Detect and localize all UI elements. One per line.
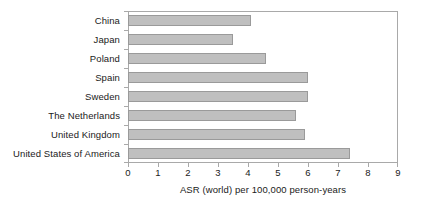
bar — [128, 34, 233, 45]
bar — [128, 72, 308, 83]
bar-row — [128, 144, 398, 163]
bar — [128, 91, 308, 102]
bar-row — [128, 125, 398, 144]
y-axis-category-label: The Netherlands — [0, 106, 124, 125]
y-axis-category-label: Japan — [0, 30, 124, 49]
y-axis-category-label: Sweden — [0, 87, 124, 106]
y-axis-category-label: United Kingdom — [0, 125, 124, 144]
x-axis-tick-labels: 0123456789 — [128, 167, 398, 181]
bar-row — [128, 87, 398, 106]
y-axis-category-label: United States of America — [0, 144, 124, 163]
x-axis-tick-label: 1 — [155, 167, 160, 178]
bar-chart-figure: ChinaJapanPolandSpainSwedenThe Netherlan… — [0, 0, 424, 206]
bar — [128, 148, 350, 159]
bar-row — [128, 30, 398, 49]
y-axis-category-label: China — [0, 11, 124, 30]
bar-series-container — [128, 11, 398, 163]
bar — [128, 129, 305, 140]
x-axis-tick-label: 3 — [215, 167, 220, 178]
x-axis-tick-label: 0 — [125, 167, 130, 178]
x-axis-tick-label: 2 — [185, 167, 190, 178]
y-axis-category-label: Spain — [0, 68, 124, 87]
bar-row — [128, 106, 398, 125]
x-axis-tick-label: 8 — [365, 167, 370, 178]
x-axis-tick-label: 7 — [335, 167, 340, 178]
bar-row — [128, 11, 398, 30]
x-axis-title: ASR (world) per 100,000 person-years — [128, 184, 398, 195]
bar — [128, 53, 266, 64]
x-axis-tick-label: 5 — [275, 167, 280, 178]
bar — [128, 15, 251, 26]
x-axis-tick-label: 9 — [395, 167, 400, 178]
x-axis-tick-label: 4 — [245, 167, 250, 178]
bar-row — [128, 49, 398, 68]
bar-row — [128, 68, 398, 87]
x-axis-tick-label: 6 — [305, 167, 310, 178]
y-axis-category-labels: ChinaJapanPolandSpainSwedenThe Netherlan… — [0, 11, 124, 163]
bar — [128, 110, 296, 121]
y-axis-category-label: Poland — [0, 49, 124, 68]
